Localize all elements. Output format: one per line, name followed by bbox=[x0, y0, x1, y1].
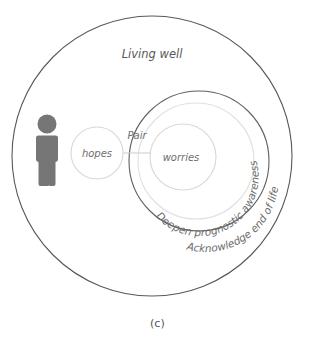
venn-diagram-svg: Living well Pair hopes worries Deepen pr… bbox=[0, 0, 315, 340]
figure-container: Living well Pair hopes worries Deepen pr… bbox=[0, 0, 315, 340]
deepen-prognostic-awareness-label: Deepen prognostic awareness bbox=[154, 159, 261, 238]
pair-label: Pair bbox=[127, 130, 147, 141]
living-well-label: Living well bbox=[122, 47, 184, 61]
worries-label: worries bbox=[163, 152, 200, 163]
hopes-label: hopes bbox=[82, 148, 112, 159]
figure-caption: (c) bbox=[0, 317, 315, 330]
person-icon bbox=[36, 115, 58, 187]
